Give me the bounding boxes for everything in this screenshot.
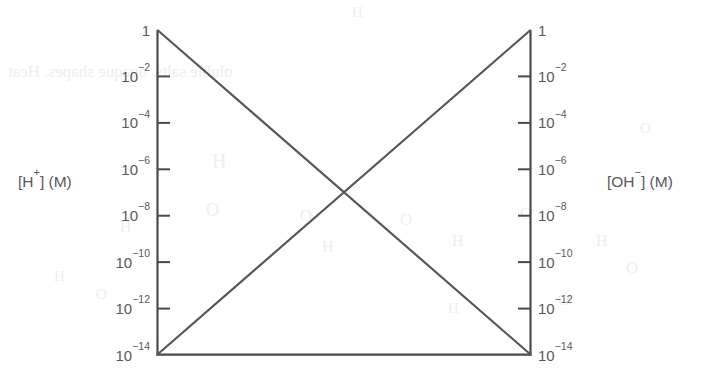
- right-tick-label-7: 10−14: [538, 348, 573, 363]
- left-tick-label-7: 10−14: [116, 348, 151, 363]
- left-tick-label-5: 10−10: [116, 255, 151, 270]
- left-tick-label-4: 10−8: [121, 208, 150, 223]
- ph-concentration-figure: 110−210−410−610−810−1010−1210−14 110−210…: [0, 0, 710, 379]
- left-tick-label-1: 10−2: [121, 69, 150, 84]
- right-tick-label-0: 1: [538, 23, 546, 38]
- right-tick-label-2: 10−4: [538, 115, 567, 130]
- right-tick-label-6: 10−12: [538, 301, 573, 316]
- right-tick-label-1: 10−2: [538, 69, 567, 84]
- right-tick-label-3: 10−6: [538, 162, 567, 177]
- left-axis-ticks: [158, 76, 171, 308]
- right-tick-label-5: 10−10: [538, 255, 573, 270]
- left-axis-title: [H+] (M): [18, 174, 72, 190]
- right-tick-label-4: 10−8: [538, 208, 567, 223]
- right-axis-ticks: [518, 76, 531, 308]
- right-axis-title: [OH−] (M): [607, 174, 673, 190]
- left-tick-label-0: 1: [142, 23, 150, 38]
- left-tick-label-2: 10−4: [121, 115, 150, 130]
- left-tick-label-6: 10−12: [116, 301, 151, 316]
- left-tick-label-3: 10−6: [121, 162, 150, 177]
